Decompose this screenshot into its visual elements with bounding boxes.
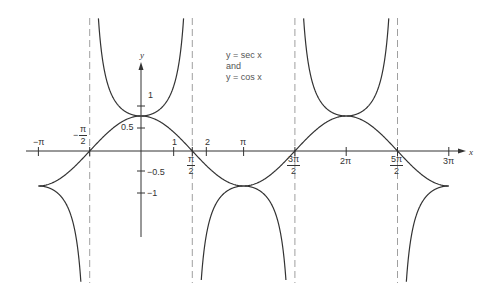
x-tick-1: 1 <box>172 138 177 147</box>
x-tick-2pi: 2π <box>340 157 351 166</box>
legend: y = sec x and y = cos x <box>226 50 262 83</box>
frac-den: 2 <box>287 166 300 176</box>
legend-sec: y = sec x <box>226 50 262 61</box>
legend-cos: y = cos x <box>226 72 262 83</box>
x-tick-3pi: 3π <box>443 157 454 166</box>
frac-num: π <box>79 125 87 136</box>
y-tick-neg-0.5: −0.5 <box>147 168 165 177</box>
frac-num: 3π <box>287 155 300 166</box>
x-axis-label: x <box>469 148 473 157</box>
y-axis-arrow-icon <box>139 62 144 70</box>
axes <box>26 62 466 237</box>
legend-and: and <box>226 61 262 72</box>
y-tick-1: 1 <box>148 91 153 100</box>
y-tick-0.5: 0.5 <box>121 123 134 132</box>
neg-sign: − <box>73 131 78 140</box>
x-tick-5pi-over-2: 5π 2 <box>390 155 403 176</box>
frac-den: 2 <box>79 136 87 146</box>
x-tick-2: 2 <box>205 138 210 147</box>
frac-den: 2 <box>390 166 403 176</box>
frac-num: π <box>187 155 195 166</box>
frac-den: 2 <box>187 166 195 176</box>
x-tick-3pi-over-2: 3π 2 <box>287 155 300 176</box>
x-tick-pi: π <box>240 138 246 147</box>
y-axis-label: y <box>140 51 144 60</box>
x-tick-neg-pi: −π <box>33 138 44 147</box>
x-axis-arrow-icon <box>458 149 466 154</box>
plot-area <box>0 0 498 301</box>
x-tick-neg-pi-over-2: − π 2 <box>79 125 87 146</box>
y-tick-neg-1: −1 <box>147 189 157 198</box>
frac-num: 5π <box>390 155 403 166</box>
x-tick-pi-over-2: π 2 <box>187 155 195 176</box>
